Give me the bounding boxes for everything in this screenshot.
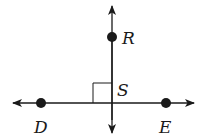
point-d: [36, 98, 46, 108]
right-angle-marker: [93, 83, 112, 103]
point-r: [107, 32, 117, 42]
label-r: R: [121, 28, 135, 48]
point-e: [161, 98, 171, 108]
label-d: D: [33, 117, 48, 137]
label-s: S: [117, 80, 129, 100]
label-e: E: [158, 117, 172, 137]
diagram-canvas: R S D E: [0, 0, 202, 140]
diagram-svg: R S D E: [0, 0, 202, 140]
